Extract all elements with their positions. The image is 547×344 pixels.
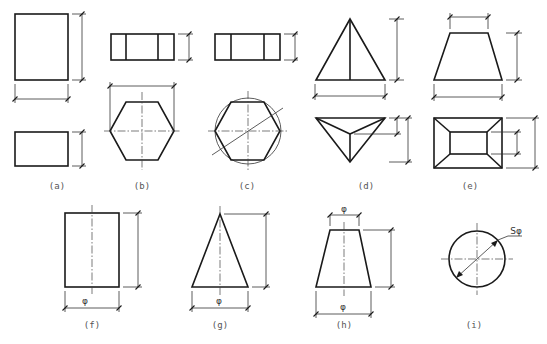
panel-g-drawing [190,206,271,312]
diameter-symbol-g: φ [216,296,222,306]
panel-d-drawing [313,17,413,165]
panel-e-label: (e) [462,181,478,191]
panel-h-label: (h) [336,320,352,330]
sphere-diameter-symbol: Sφ [510,226,522,236]
diameter-symbol-f: φ [82,296,88,306]
panel-f-drawing [63,205,143,312]
panel-i-label: (i) [466,320,482,330]
panel-d-label: (d) [358,181,374,191]
diagram-canvas: (a) (b) (c) (d) (e) (f) (g) (h) (i) φ φ … [0,0,547,344]
drawing-svg [0,0,547,344]
panel-b-drawing [104,32,193,171]
panel-b-label: (b) [134,181,150,191]
diameter-symbol-h-top: φ [341,204,347,214]
panel-a-drawing [13,12,87,169]
panel-g-label: (g) [212,320,228,330]
panel-h-drawing [314,213,396,319]
panel-c-drawing [208,32,298,172]
panel-a-label: (a) [49,181,65,191]
diameter-symbol-h-bottom: φ [340,302,346,312]
panel-c-label: (c) [239,181,255,191]
panel-e-drawing [432,13,540,171]
panel-f-label: (f) [84,320,100,330]
